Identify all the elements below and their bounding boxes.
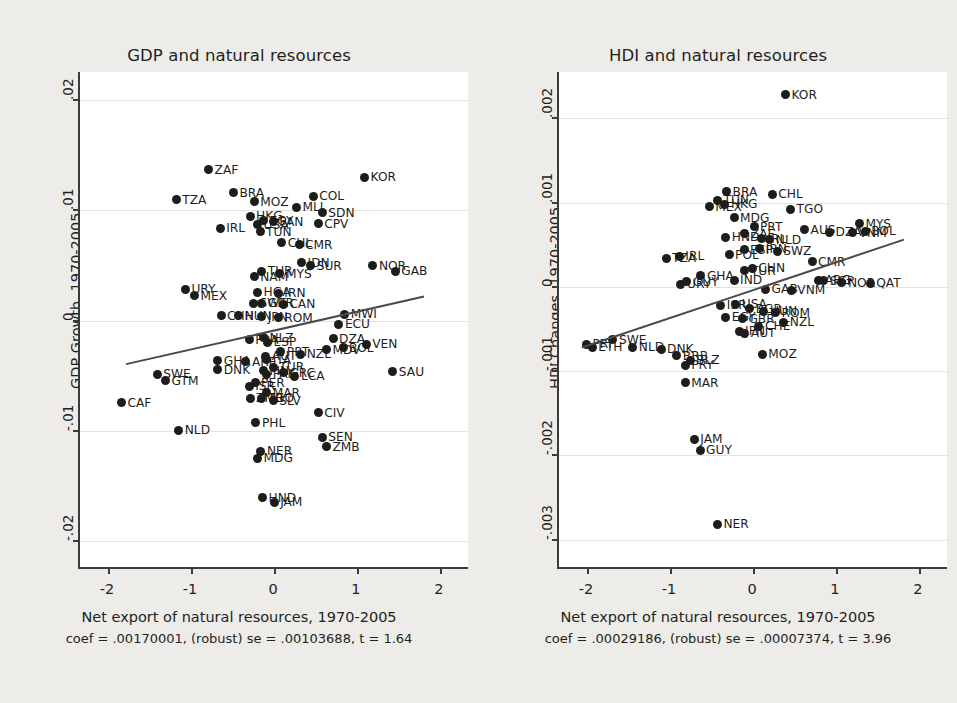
x-tick-label: -2 [77, 581, 137, 597]
x-axis-title-gdp: Net export of natural resources, 1970-20… [0, 609, 478, 625]
figure-root: GDP and natural resources GDP Growth, 19… [0, 0, 957, 703]
x-tick-label: -1 [160, 581, 220, 597]
x-axis-title-hdi: Net export of natural resources, 1970-20… [479, 609, 957, 625]
x-tick-label: 1 [326, 581, 386, 597]
x-tick-label: 0 [243, 581, 303, 597]
x-tick-label: 1 [805, 581, 865, 597]
x-tick-label: -2 [556, 581, 616, 597]
x-tick-label: 2 [888, 581, 948, 597]
x-axis-annotation-gdp: coef = .00170001, (robust) se = .0010368… [0, 631, 478, 646]
fit-line-gdp [0, 0, 478, 703]
x-tick-label: 0 [722, 581, 782, 597]
x-axis-annotation-hdi: coef = .00029186, (robust) se = .0000737… [479, 631, 957, 646]
x-tick-label: 2 [409, 581, 469, 597]
panel-gdp: GDP and natural resources GDP Growth, 19… [0, 0, 478, 703]
panel-hdi: HDI and natural resources HDI Changes, 1… [479, 0, 957, 703]
x-tick-label: -1 [639, 581, 699, 597]
